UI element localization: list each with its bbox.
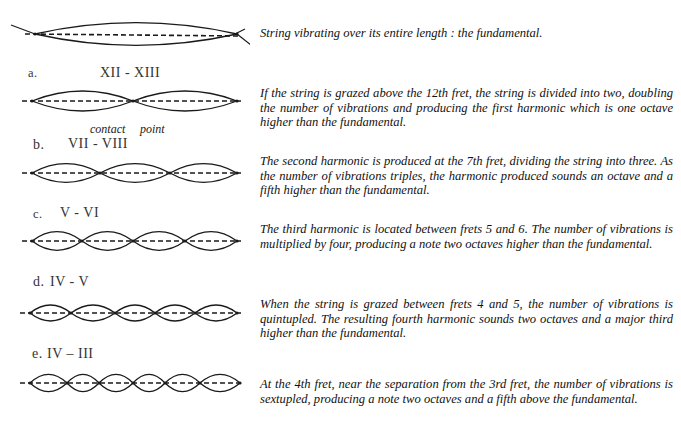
section-marker-e: e. <box>32 347 43 361</box>
second-harmonic-wave-diagram <box>22 164 241 183</box>
section-marker-d: d. <box>33 275 45 289</box>
description-fundamental: String vibrating over its entire length … <box>260 26 673 41</box>
node-point <box>131 381 134 384</box>
node-point <box>98 171 101 174</box>
node-point <box>235 171 238 174</box>
point-label: point <box>140 123 165 135</box>
description-first-harmonic: If the string is grazed above the 12th f… <box>260 86 673 130</box>
third-harmonic-wave-diagram <box>22 232 241 251</box>
string-tail <box>237 34 250 45</box>
string-axis-line <box>25 34 241 36</box>
description-second-harmonic: The second harmonic is produced at the 7… <box>260 154 673 198</box>
node-point <box>238 381 241 384</box>
node-point <box>28 381 31 384</box>
section-marker-a: a. <box>28 67 38 80</box>
node-point <box>153 311 156 314</box>
node-point <box>193 311 196 314</box>
node-point <box>69 311 72 314</box>
node-point <box>183 239 186 242</box>
fret-label-e: IV – III <box>47 347 94 361</box>
node-point <box>168 171 171 174</box>
node-point <box>235 239 238 242</box>
fret-label-a: XII - XIII <box>100 66 160 80</box>
fret-label-d: IV - V <box>50 275 89 289</box>
fret-label-c: V - VI <box>60 206 99 220</box>
contact-label: contact <box>90 123 125 135</box>
first-harmonic-wave-diagram <box>22 91 241 111</box>
node-point <box>80 239 83 242</box>
string-tail <box>11 25 35 34</box>
node-point <box>30 239 33 242</box>
fourth-harmonic-wave-diagram <box>20 305 241 321</box>
string-tail <box>233 29 245 35</box>
node-point <box>30 171 33 174</box>
fret-label-b: VII - VIII <box>68 137 128 151</box>
node-point <box>198 381 201 384</box>
node-point <box>131 99 134 102</box>
fifth-harmonic-wave-diagram <box>20 374 244 391</box>
node-point <box>30 99 33 102</box>
node-point <box>163 381 166 384</box>
description-third-harmonic: The third harmonic is located between fr… <box>260 222 673 251</box>
node-point <box>113 311 116 314</box>
section-marker-c: c. <box>33 208 43 221</box>
node-point <box>97 381 100 384</box>
node-point <box>235 99 238 102</box>
node-point <box>28 311 31 314</box>
node-point <box>131 239 134 242</box>
node-point <box>65 381 68 384</box>
section-marker-b: b. <box>33 138 45 152</box>
description-fifth-harmonic: At the 4th fret, near the separation fro… <box>260 377 673 406</box>
fundamental-wave-diagram <box>11 23 250 46</box>
description-fourth-harmonic: When the string is grazed between frets … <box>260 297 673 341</box>
node-point <box>235 311 238 314</box>
